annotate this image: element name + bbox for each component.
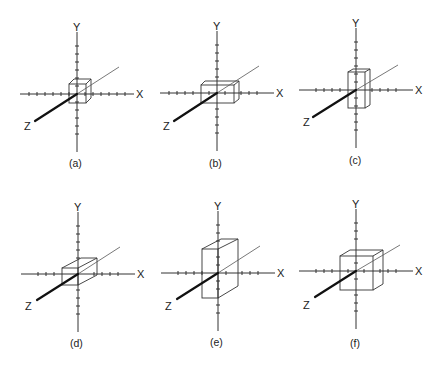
z-axis-label: Z — [24, 120, 31, 132]
z-axis-negative — [218, 246, 260, 273]
panel-caption: (b) — [209, 157, 222, 169]
x-axis-label: X — [277, 267, 285, 279]
y-axis-label: Y — [213, 20, 221, 32]
z-axis-positive — [313, 90, 356, 117]
panel-e: Y X Z (e) — [161, 200, 285, 348]
x-axis-label: X — [415, 84, 423, 96]
panel-d: Y X Z (d) — [21, 201, 145, 349]
z-axis-negative — [78, 247, 120, 274]
z-axis-negative — [217, 66, 259, 93]
z-axis-label: Z — [25, 300, 32, 312]
z-axis-positive — [35, 94, 77, 121]
z-axis-positive — [177, 273, 218, 299]
z-axis-label: Z — [163, 120, 170, 132]
y-axis-label: Y — [73, 21, 81, 33]
box — [69, 79, 91, 103]
panel-b: Y X Z (b) — [160, 20, 284, 169]
panel-caption: (a) — [69, 157, 82, 169]
z-axis-label: Z — [303, 116, 310, 128]
z-axis-positive — [37, 274, 78, 300]
z-axis-negative — [77, 67, 119, 94]
x-axis-label: X — [415, 265, 423, 277]
y-axis-label: Y — [352, 17, 360, 29]
panel-f: Y X Z (f) — [299, 198, 423, 349]
panel-c: Y X Z (c) — [299, 17, 423, 166]
x-axis-label: X — [137, 268, 145, 280]
y-axis-label: Y — [352, 198, 360, 210]
y-axis-label: Y — [74, 201, 82, 213]
z-axis-label: Z — [303, 299, 310, 311]
ticks — [169, 45, 257, 133]
z-axis-negative — [356, 245, 400, 271]
y-axis-label: Y — [214, 200, 222, 212]
z-axis-positive — [174, 93, 217, 121]
panel-a: Y X Z (a) — [20, 21, 144, 169]
z-axis-label: Z — [165, 300, 172, 312]
box — [340, 250, 383, 290]
panel-caption: (c) — [349, 154, 361, 166]
x-axis-label: X — [136, 88, 144, 100]
panel-caption: (f) — [350, 337, 360, 349]
figure-canvas: Y X Z (a) Y X Z (b) — [0, 0, 445, 372]
panel-caption: (e) — [210, 336, 223, 348]
x-axis-label: X — [276, 87, 284, 99]
z-axis-positive — [315, 271, 356, 297]
panel-caption: (d) — [70, 337, 83, 349]
